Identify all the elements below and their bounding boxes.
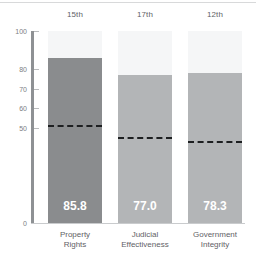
y-tick-mark-100 (34, 31, 39, 32)
plot-area: 100 80 70 60 50 0 85.8 77.0 78.3 Propert… (0, 0, 256, 261)
category-label-line-1: Government (181, 230, 249, 240)
category-label-line-2: Effectiveness (111, 240, 179, 250)
category-label-line-1: Property (41, 230, 109, 240)
y-tick-mark-60 (34, 108, 39, 109)
y-tick-mark-50 (34, 128, 39, 129)
category-label-line-2: Rights (41, 240, 109, 250)
y-tick-mark-80 (34, 69, 39, 70)
zero-baseline (31, 223, 245, 224)
reference-marker-property-rights (48, 125, 102, 127)
bar-chart: 15th 17th 12th 100 80 70 60 50 0 85.8 77… (0, 0, 256, 261)
y-tick-label-60: 60 (2, 105, 27, 112)
bar-value-judicial-effectiveness: 77.0 (118, 200, 172, 213)
y-axis-spine (31, 31, 34, 223)
category-label-line-2: Integrity (181, 240, 249, 250)
bar-value-property-rights: 85.8 (48, 200, 102, 213)
reference-marker-judicial-effectiveness (118, 137, 172, 139)
y-tick-label-0: 0 (2, 220, 27, 227)
bar-value-government-integrity: 78.3 (188, 200, 242, 213)
y-tick-label-50: 50 (2, 125, 27, 132)
y-tick-label-70: 70 (2, 86, 27, 93)
category-label-line-1: Judicial (111, 230, 179, 240)
y-tick-mark-70 (34, 89, 39, 90)
reference-marker-government-integrity (188, 141, 242, 143)
y-tick-label-100: 100 (2, 28, 27, 35)
category-label-property-rights: Property Rights (41, 230, 109, 250)
category-label-judicial-effectiveness: Judicial Effectiveness (111, 230, 179, 250)
category-label-government-integrity: Government Integrity (181, 230, 249, 250)
y-tick-label-80: 80 (2, 66, 27, 73)
